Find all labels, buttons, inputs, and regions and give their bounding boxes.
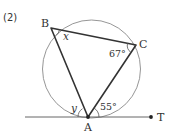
- angle-label-y: y: [70, 102, 78, 114]
- problem-number: (2): [3, 12, 17, 23]
- angle-label-x: x: [63, 30, 69, 42]
- label-b: B: [41, 17, 49, 30]
- angle-label-55: 55°: [100, 101, 117, 112]
- label-c: C: [139, 38, 147, 51]
- label-t: T: [157, 111, 165, 124]
- geometry-figure: (2) B C A T x 67° y 55°: [0, 0, 172, 139]
- point-a-dot: [86, 115, 90, 119]
- angle-arc-b: [56, 30, 60, 36]
- angle-label-67: 67°: [109, 48, 126, 59]
- angle-arc-55: [94, 108, 99, 117]
- label-a: A: [83, 121, 93, 134]
- point-t-dot: [149, 115, 153, 119]
- angle-arc-y: [78, 109, 83, 117]
